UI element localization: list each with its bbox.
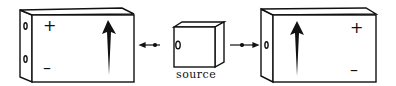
left-plus-sign: + — [43, 16, 57, 35]
right-minus-sign: – — [350, 60, 359, 79]
left-minus-sign: – — [43, 58, 52, 77]
right-plus-sign: + — [350, 18, 364, 37]
source-cube-side — [215, 22, 224, 67]
left-plate-side — [20, 10, 32, 82]
left-connector-arrow-icon — [140, 43, 160, 47]
right-plate-top — [261, 8, 376, 15]
source-label: source — [176, 68, 216, 81]
right-plate-side — [261, 9, 273, 82]
right-connector-arrow-icon — [230, 43, 258, 47]
source-cube — [174, 22, 224, 67]
left-plate — [20, 8, 134, 82]
left-plate-top — [20, 8, 134, 15]
